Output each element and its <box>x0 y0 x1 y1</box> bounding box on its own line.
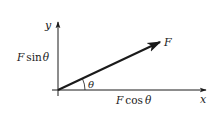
force-diagram: y x F θ Fsinθ Fcosθ <box>0 0 223 113</box>
horizontal-component-arg: θ <box>145 94 152 106</box>
angle-label: θ <box>88 79 94 90</box>
vertical-component-label: Fsinθ <box>16 51 50 63</box>
horizontal-component-func: cos <box>125 94 143 106</box>
vertical-component-arg: θ <box>43 51 50 63</box>
angle-arc <box>82 79 85 91</box>
horizontal-component-prefix: F <box>115 94 124 106</box>
y-axis-label: y <box>44 19 52 32</box>
vertical-component-prefix: F <box>16 51 25 63</box>
x-axis-label: x <box>200 93 207 106</box>
vertical-component-func: sin <box>26 51 42 63</box>
horizontal-component-label: Fcosθ <box>115 94 152 106</box>
force-label: F <box>163 36 172 49</box>
force-vector <box>58 42 160 90</box>
